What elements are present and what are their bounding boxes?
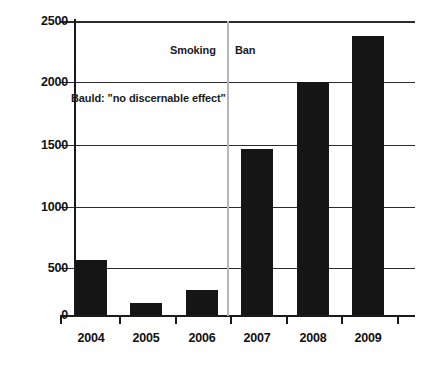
x-tick-label-2004: 2004 xyxy=(64,331,118,345)
bar-2006 xyxy=(186,290,218,315)
x-tick-label-2008: 2008 xyxy=(286,331,340,345)
bar-2007 xyxy=(241,149,273,315)
x-tick-1 xyxy=(119,315,121,324)
bar-2008 xyxy=(297,82,329,315)
x-tick-label-2007: 2007 xyxy=(230,331,284,345)
x-tick-6 xyxy=(397,315,399,324)
x-tick-4 xyxy=(286,315,288,324)
x-tick-2 xyxy=(175,315,177,324)
annotation-bauld-quote: Bauld: "no discernable effect" xyxy=(71,92,226,104)
bar-chart: 2500 2000 1500 1000 500 0 2004 2005 2006… xyxy=(0,0,422,369)
x-axis-line xyxy=(60,315,415,317)
annotation-ban: Ban xyxy=(235,44,255,56)
x-tick-label-2009: 2009 xyxy=(341,331,395,345)
bar-2009 xyxy=(352,36,384,315)
bar-2004 xyxy=(75,260,107,315)
smoking-ban-marker-line xyxy=(227,21,229,316)
x-tick-label-2005: 2005 xyxy=(119,331,173,345)
x-tick-label-2006: 2006 xyxy=(175,331,229,345)
bar-2005 xyxy=(130,303,162,315)
bars-layer xyxy=(0,21,422,315)
x-tick-3 xyxy=(230,315,232,324)
annotation-smoking: Smoking xyxy=(170,44,216,56)
x-tick-5 xyxy=(341,315,343,324)
x-tick-0 xyxy=(60,315,62,324)
